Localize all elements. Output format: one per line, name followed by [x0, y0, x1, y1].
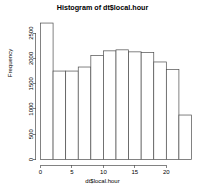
x-axis-tick-label: 20: [163, 169, 170, 175]
y-axis: 05001000150020002500: [28, 26, 36, 161]
y-axis-tick-label: 0: [28, 157, 34, 161]
histogram-bar: [166, 70, 179, 160]
histogram-bar: [91, 55, 104, 159]
x-axis-tick-label: 15: [132, 169, 139, 175]
histogram-bar: [116, 50, 129, 160]
y-axis-tick-label: 1000: [28, 102, 34, 116]
x-axis: 05101520: [39, 165, 170, 175]
chart-canvas: 05001000150020002500 05101520: [0, 0, 205, 186]
histogram-bar: [103, 51, 116, 160]
histogram-plot: Histogram of dt$local.hour Frequency dt$…: [0, 0, 205, 186]
y-axis-tick-label: 2500: [28, 26, 34, 40]
histogram-bar: [141, 52, 154, 159]
x-axis-tick-label: 0: [39, 169, 43, 175]
y-axis-tick-label: 500: [28, 129, 34, 140]
bars-group: [41, 23, 192, 159]
y-axis-tick-label: 1500: [28, 76, 34, 90]
y-axis-tick-label: 2000: [28, 51, 34, 65]
histogram-bar: [53, 71, 66, 159]
histogram-bar: [179, 115, 192, 159]
histogram-bar: [41, 23, 54, 159]
histogram-bar: [66, 71, 79, 159]
x-axis-tick-label: 10: [100, 169, 107, 175]
x-axis-tick-label: 5: [70, 169, 74, 175]
histogram-bar: [78, 67, 91, 159]
histogram-bar: [154, 62, 167, 160]
histogram-bar: [129, 52, 142, 160]
